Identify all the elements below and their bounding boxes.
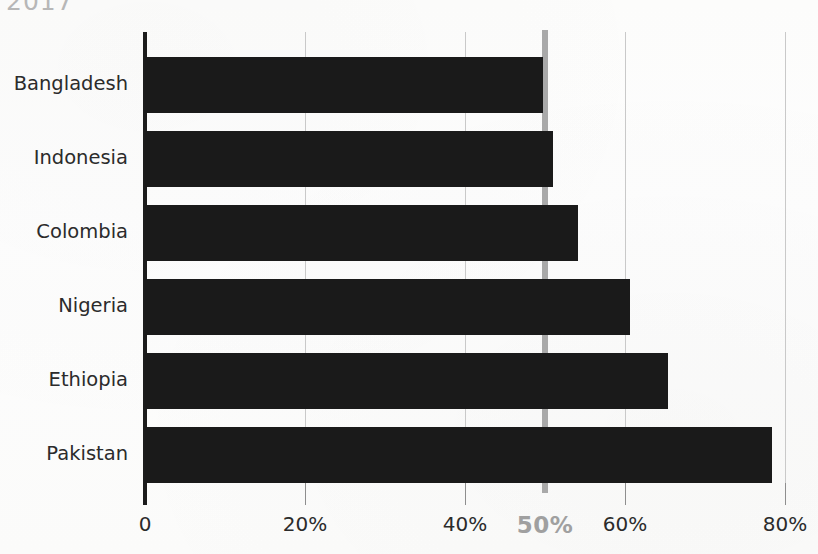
chart-page: 2017 020%40%50%60%80%BangladeshIndonesia… — [0, 0, 818, 554]
xtick-label-40: 40% — [443, 512, 487, 536]
xtick-label-60: 60% — [603, 512, 647, 536]
plot-area: 020%40%50%60%80%BangladeshIndonesiaColom… — [0, 0, 818, 554]
category-label-nigeria: Nigeria — [0, 294, 128, 317]
xtick-label-80: 80% — [763, 512, 807, 536]
tick-mark-20 — [305, 483, 306, 505]
category-label-bangladesh: Bangladesh — [0, 72, 128, 95]
category-label-pakistan: Pakistan — [0, 442, 128, 465]
category-label-indonesia: Indonesia — [0, 146, 128, 169]
bar-indonesia — [145, 131, 553, 187]
gridline-60 — [625, 32, 626, 485]
bar-nigeria — [145, 279, 630, 335]
bar-colombia — [145, 205, 578, 261]
category-label-colombia: Colombia — [0, 220, 128, 243]
xtick-label-50: 50% — [517, 512, 574, 538]
gridline-80 — [785, 32, 786, 485]
bar-ethiopia — [145, 353, 668, 409]
tick-mark-80 — [785, 483, 786, 505]
bar-pakistan — [145, 427, 772, 483]
xtick-label-20: 20% — [283, 512, 327, 536]
tick-mark-60 — [625, 483, 626, 505]
xtick-label-0: 0 — [139, 512, 152, 536]
bar-bangladesh — [145, 57, 543, 113]
tick-mark-40 — [465, 483, 466, 505]
category-label-ethiopia: Ethiopia — [0, 368, 128, 391]
